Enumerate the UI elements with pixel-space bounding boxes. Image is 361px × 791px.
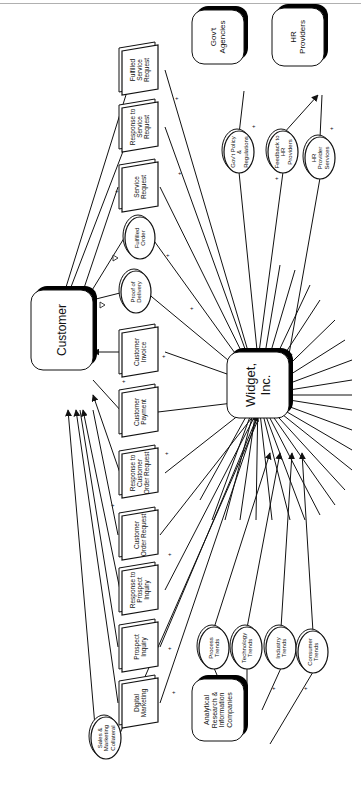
oval-label-line: Feedback to: [274, 135, 280, 169]
document-label-line: Customer: [133, 397, 140, 426]
flow-line: [165, 70, 258, 385]
oval-label-line: &: [236, 150, 242, 154]
document-label-line: Customer: [133, 520, 140, 549]
oval-proof-of-delivery[interactable]: Proof ofDelivery: [119, 269, 151, 313]
oval-label-line: Trends: [247, 639, 253, 657]
document-customer-payment[interactable]: CustomerPayment: [119, 384, 158, 437]
entity-govt[interactable]: Gov'tAgencies: [192, 6, 248, 64]
entity-label: AnalyticalResearch &InformationCompanies: [203, 691, 234, 728]
document-label-line: Marketing: [140, 688, 148, 717]
oval-label-line: HR: [280, 147, 286, 156]
oval-technology-trends[interactable]: TechnologyTrends: [230, 625, 262, 669]
plus-marker: +: [168, 551, 172, 557]
document-prospect-inquiry[interactable]: ProspectInquiry: [119, 619, 158, 672]
plus-marker: +: [122, 378, 126, 384]
oval-hr-provider-services[interactable]: HRProviderServices: [303, 135, 335, 179]
entity-label-line: Providers: [298, 20, 307, 54]
flow-line: [302, 453, 313, 632]
flow-line: [68, 410, 96, 738]
delta-icon: [113, 255, 118, 261]
document-label-line: Inquiry: [140, 636, 148, 656]
oval-industry-trends[interactable]: IndustryTrends: [264, 625, 296, 669]
oval-label-line: Industry: [275, 637, 281, 658]
document-fulfilled-service-request[interactable]: FulfilledServiceRequest: [119, 42, 158, 95]
document-label-line: Fulfilled: [129, 58, 136, 81]
document-label-line: Invoice: [140, 341, 147, 362]
plus-marker: +: [166, 252, 170, 258]
document-label-line: Request: [143, 115, 151, 139]
flow-line: [288, 178, 320, 360]
oval-consumer-trends[interactable]: ConsumerTrends: [296, 629, 328, 673]
plus-marker: +: [190, 305, 194, 311]
oval-label-line: Providers: [287, 139, 293, 164]
document-label-line: Payment: [140, 399, 148, 425]
oval-label-line: Services: [324, 146, 330, 169]
oval-label-line: Fulfilled: [134, 228, 140, 249]
oval-label: FulfilledOrder: [134, 228, 147, 249]
entity-hr[interactable]: HRProviders: [272, 4, 328, 66]
plus-marker: +: [165, 450, 169, 456]
oval-label: Proof ofDelivery: [130, 281, 143, 303]
oval-fulfilled-order[interactable]: FulfilledOrder: [123, 215, 155, 259]
document-label-line: Request: [143, 58, 151, 82]
plus-marker: +: [172, 689, 176, 695]
flow-line: [270, 672, 313, 744]
entity-label-line: Widget,: [243, 363, 258, 407]
document-label-line: Inquiry: [143, 579, 151, 599]
document-label-line: Customer: [133, 337, 140, 366]
plus-marker: +: [304, 685, 308, 691]
flow-line: [239, 91, 244, 134]
oval-label-line: HR: [311, 153, 317, 162]
oval-label-line: Provider: [317, 147, 323, 169]
document-label-line: Request: [140, 175, 148, 199]
entity-label-line: Inc.: [258, 375, 273, 396]
flow-line: [80, 187, 118, 300]
flow-line: [160, 410, 258, 535]
document-digital-marketing[interactable]: DigitalMarketing: [119, 675, 158, 728]
oval-label-line: Proof of: [130, 281, 136, 302]
plus-marker: +: [272, 685, 276, 691]
document-label-line: Order Request: [140, 513, 148, 556]
oval-label-line: Trends: [281, 639, 287, 657]
oval-feedback-hr[interactable]: Feedback toHRProviders: [266, 129, 298, 173]
document-response-customer-order[interactable]: Response toCustomerOrder Request: [119, 445, 158, 498]
plus-marker: +: [330, 125, 334, 131]
flow-line: [320, 95, 322, 138]
entity-customer[interactable]: Customer: [31, 286, 97, 370]
oval-label-line: Order: [140, 230, 146, 245]
document-label: CustomerPayment: [133, 397, 148, 426]
document-response-service-request[interactable]: Response toServiceRequest: [119, 99, 158, 152]
context-diagram: ++++++++++++++++++++ CustomerWidget,Inc.…: [0, 0, 361, 791]
document-response-prospect-inquiry[interactable]: Response toProspectInquiry: [119, 562, 158, 615]
entity-widget[interactable]: Widget,Inc.: [227, 348, 293, 418]
document-label-line: Customer: [136, 458, 143, 487]
oval-label-line: Collateral: [110, 725, 116, 750]
oval-sales-marketing-collateral[interactable]: Sales &MarketingCollateral: [89, 715, 121, 759]
flow-line: [283, 95, 318, 134]
oval-label-line: Trends: [214, 639, 220, 657]
flow-line: [80, 410, 118, 647]
oval-label-line: Trends: [313, 643, 319, 661]
oval-label-line: Marketing: [103, 725, 109, 751]
oval-label: IndustryTrends: [275, 637, 288, 658]
oval-process-trends[interactable]: ProcessTrends: [197, 625, 229, 669]
delta-icon: [100, 302, 105, 308]
document-label-line: Order Request: [143, 451, 151, 494]
oval-label-line: Consumer: [307, 638, 313, 666]
oval-label-line: Technology: [241, 633, 247, 663]
oval-govt-policy[interactable]: Gov't Policy&Regulations: [222, 129, 254, 173]
document-label: ServiceRequest: [133, 175, 148, 199]
oval-label-line: Delivery: [136, 281, 142, 303]
flow-line: [258, 172, 283, 360]
oval-label: ProcessTrends: [208, 637, 221, 659]
plus-marker: +: [275, 175, 279, 181]
document-customer-invoice[interactable]: CustomerInvoice: [119, 324, 158, 377]
entity-analytical[interactable]: AnalyticalResearch &InformationCompanies: [192, 675, 248, 741]
document-customer-order-request[interactable]: CustomerOrder Request: [119, 507, 158, 560]
diagram-nodes: CustomerWidget,Inc.Gov'tAgenciesHRProvid…: [31, 4, 335, 759]
plus-marker: +: [115, 188, 119, 194]
flow-line: [247, 453, 280, 628]
document-service-request[interactable]: ServiceRequest: [119, 159, 158, 212]
document-label: ProspectInquiry: [133, 634, 148, 660]
entity-label-line: Research &: [211, 691, 218, 728]
